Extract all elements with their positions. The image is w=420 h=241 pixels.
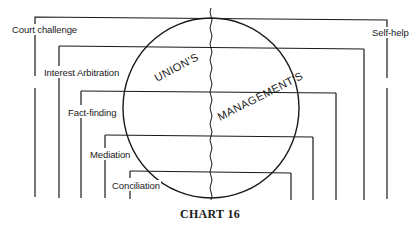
label-mediation: Mediation (89, 149, 131, 160)
label-interest-arbitration: Interest Arbitration (43, 67, 120, 78)
label-court-challenge: Court challenge (11, 24, 78, 35)
chart-caption: CHART 16 (0, 207, 420, 222)
bracket-4-top (105, 135, 313, 137)
label-fact-finding: Fact-finding (67, 107, 117, 118)
union-side-label: UNION'S (152, 50, 200, 83)
management-side-label: MANAGEMENT'S (215, 69, 304, 122)
label-self-help: Self-help (371, 27, 410, 38)
wavy-divider-line (210, 8, 212, 200)
label-conciliation: Conciliation (111, 180, 161, 191)
bracket-diagram-svg: UNION'S MANAGEMENT'S (0, 0, 420, 241)
